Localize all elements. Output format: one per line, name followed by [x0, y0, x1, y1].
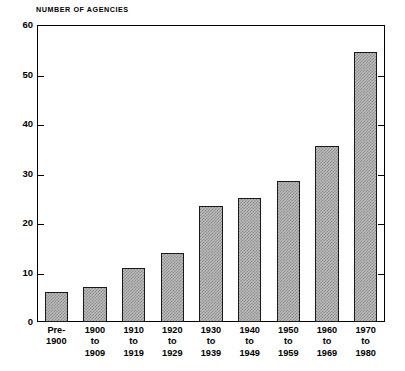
x-axis-tick-label-line: 1959: [269, 348, 308, 359]
x-axis-tick-label-line: to: [346, 336, 385, 347]
bar: [277, 181, 300, 322]
x-axis-tick-label-line: to: [269, 336, 308, 347]
x-axis-tick-label-line: 1920: [153, 325, 192, 336]
x-axis-tick-label-line: 1980: [346, 348, 385, 359]
x-axis: Pre-19001900to19091910to19191920to192919…: [37, 325, 385, 369]
x-axis-tick-label-line: 1919: [114, 348, 153, 359]
bar: [315, 146, 338, 322]
x-axis-tick-label-line: 1950: [269, 325, 308, 336]
bar: [354, 52, 377, 322]
bar: [122, 268, 145, 322]
bar: [161, 253, 184, 322]
x-axis-tick-label: 1930to1939: [192, 325, 231, 359]
x-axis-tick-label: 1960to1969: [308, 325, 347, 359]
x-axis-tick-label: 1910to1919: [114, 325, 153, 359]
x-axis-tick-label-line: 1909: [76, 348, 115, 359]
x-axis-tick-label-line: to: [114, 336, 153, 347]
x-axis-tick-label-line: 1910: [114, 325, 153, 336]
x-axis-tick-label-line: 1949: [230, 348, 269, 359]
x-axis-tick-label-line: 1940: [230, 325, 269, 336]
page-title: NUMBER OF AGENCIES: [36, 5, 129, 14]
x-axis-tick-label: 1900to1909: [76, 325, 115, 359]
x-axis-tick-label: 1970to1980: [346, 325, 385, 359]
x-axis-tick-label-line: to: [76, 336, 115, 347]
x-axis-tick-label-line: Pre-: [37, 325, 76, 336]
bar-chart-figure: NUMBER OF AGENCIES 0102030405060 Pre-190…: [0, 0, 405, 371]
x-axis-tick-label: Pre-1900: [37, 325, 76, 348]
x-axis-tick-label-line: 1969: [308, 348, 347, 359]
x-axis-tick-label-line: to: [308, 336, 347, 347]
x-axis-tick-label-line: to: [230, 336, 269, 347]
y-axis-tick-label: 60: [7, 20, 33, 30]
y-axis-tick-label: 20: [7, 218, 33, 228]
x-axis-tick-label: 1950to1959: [269, 325, 308, 359]
y-axis-tick-label: 40: [7, 119, 33, 129]
x-axis-tick-label-line: 1960: [308, 325, 347, 336]
y-axis-tick-label: 0: [7, 317, 33, 327]
y-axis: 0102030405060: [0, 25, 33, 322]
x-axis-tick-label-line: 1939: [192, 348, 231, 359]
x-axis-tick-label-line: 1900: [76, 325, 115, 336]
x-axis-tick-label-line: 1970: [346, 325, 385, 336]
bar: [45, 292, 68, 322]
bar: [238, 198, 261, 322]
x-axis-tick-label-line: to: [192, 336, 231, 347]
y-axis-tick-label: 30: [7, 169, 33, 179]
x-axis-tick-label-line: 1900: [37, 336, 76, 347]
x-axis-tick-label-line: to: [153, 336, 192, 347]
bar: [199, 206, 222, 322]
bar: [83, 287, 106, 322]
x-axis-tick-label: 1920to1929: [153, 325, 192, 359]
x-axis-tick-label: 1940to1949: [230, 325, 269, 359]
y-axis-tick-label: 50: [7, 70, 33, 80]
y-axis-tick-label: 10: [7, 268, 33, 278]
bars-layer: [37, 25, 385, 322]
x-axis-tick-label-line: 1930: [192, 325, 231, 336]
x-axis-tick-label-line: 1929: [153, 348, 192, 359]
